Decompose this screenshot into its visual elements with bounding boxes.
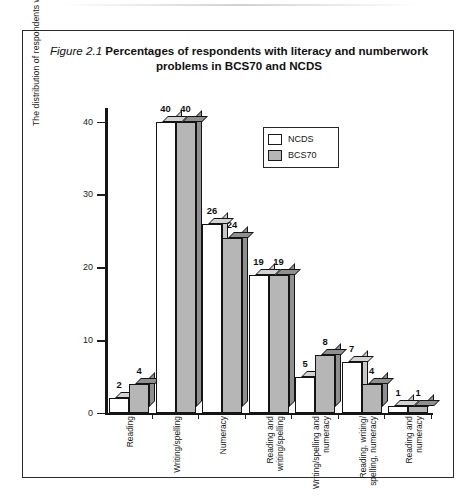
bar-front-face xyxy=(408,406,428,413)
bar-front-face xyxy=(222,238,242,413)
bar-bcs70 xyxy=(129,384,149,413)
figure-frame: Figure 2.1 Percentages of respondents wi… xyxy=(22,30,454,478)
bars-layer: 24404026241919587411 xyxy=(105,86,433,414)
bar-group: 58 xyxy=(295,86,342,414)
bar-front-face xyxy=(176,122,196,413)
bar-bcs70 xyxy=(408,406,428,413)
x-axis-category-label: Writing/spelling xyxy=(172,416,182,502)
bar-value-label: 4 xyxy=(124,365,154,376)
bar-front-face xyxy=(388,406,408,413)
figure-title: Figure 2.1 Percentages of respondents wi… xyxy=(37,43,441,73)
bar-front-face xyxy=(269,275,289,413)
bar-value-label: 19 xyxy=(264,256,294,267)
bar-front-face xyxy=(202,224,222,413)
bar-front-face xyxy=(109,398,129,413)
bar-value-label: 1 xyxy=(403,387,433,398)
bar-ncds xyxy=(249,275,269,413)
figure-title-text: Percentages of respondents with literacy… xyxy=(105,44,428,72)
bar-value-label: 7 xyxy=(337,343,367,354)
bar-ncds xyxy=(388,406,408,413)
x-axis-category-label: Writing/spelling and numeracy xyxy=(311,416,331,502)
bar-side-face xyxy=(289,263,295,407)
bar-group: 11 xyxy=(388,86,435,414)
bar-front-face xyxy=(249,275,269,413)
bar-value-label: 40 xyxy=(171,103,201,114)
bar-bcs70 xyxy=(269,275,289,413)
y-axis-label: The distribution of respondents with dif… xyxy=(31,0,41,126)
y-axis-tick-label: 10 xyxy=(71,335,93,345)
bar-group: 74 xyxy=(342,86,389,414)
bar-group: 4040 xyxy=(156,86,203,414)
x-axis-category-labels: ReadingWriting/spellingNumeracyReading a… xyxy=(105,416,433,503)
y-axis-tick-label: 30 xyxy=(71,189,93,199)
bar-group: 1919 xyxy=(249,86,296,414)
bar-ncds xyxy=(202,224,222,413)
x-axis-category-label: Reading and writing/spelling xyxy=(265,416,285,502)
bar-front-face xyxy=(129,384,149,413)
bar-ncds xyxy=(109,398,129,413)
bar-front-face xyxy=(362,384,382,413)
bar-front-face xyxy=(295,377,315,413)
x-axis-category-label: Reading xyxy=(125,416,135,502)
y-axis-tick-label: 20 xyxy=(71,262,93,272)
bar-group: 2624 xyxy=(202,86,249,414)
y-axis-tick-label: 40 xyxy=(71,117,93,127)
bar-ncds xyxy=(295,377,315,413)
bar-value-label: 26 xyxy=(197,205,227,216)
bar-group: 24 xyxy=(109,86,156,414)
bar-bcs70 xyxy=(315,355,335,413)
bar-front-face xyxy=(315,355,335,413)
x-axis-category-label: Reading and numeracy xyxy=(404,416,424,502)
scan-artifact xyxy=(60,4,420,6)
bar-value-label: 8 xyxy=(310,336,340,347)
bar-value-label: 4 xyxy=(357,365,387,376)
x-axis-category-label: Numeracy xyxy=(218,416,228,502)
bar-side-face xyxy=(196,110,202,407)
figure-number: Figure 2.1 xyxy=(50,44,102,57)
bar-ncds xyxy=(156,122,176,413)
bar-value-label: 24 xyxy=(217,219,247,230)
plot-area: The distribution of respondents with dif… xyxy=(63,86,441,421)
bar-bcs70 xyxy=(222,238,242,413)
x-axis-category-label: Reading, writing/ spelling, numeracy xyxy=(358,416,378,502)
bar-front-face xyxy=(156,122,176,413)
bar-side-face xyxy=(242,226,248,407)
bar-bcs70 xyxy=(362,384,382,413)
y-axis-tick-label: 0 xyxy=(71,408,93,418)
bar-bcs70 xyxy=(176,122,196,413)
